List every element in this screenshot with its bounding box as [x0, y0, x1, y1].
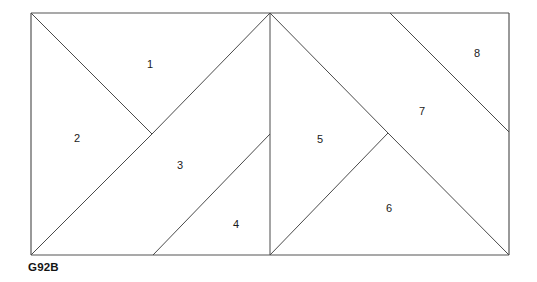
segment-cut-6-7 [388, 133, 509, 255]
region-label-7: 7 [419, 106, 425, 117]
segment-cut-1-3 [152, 13, 270, 134]
region-label-8: 8 [474, 48, 480, 59]
segment-cut-2-3 [31, 134, 152, 255]
region-label-2: 2 [74, 133, 80, 144]
segment-cut-5-6 [270, 133, 388, 255]
region-label-1: 1 [147, 59, 153, 70]
region-label-6: 6 [386, 203, 392, 214]
segment-cut-7-8 [390, 13, 509, 132]
segment-cut-3-4 [153, 134, 270, 255]
line-segments-group [31, 13, 509, 255]
figure-caption-label: G92B [28, 262, 59, 274]
region-label-4: 4 [233, 219, 239, 230]
segment-cut-5-7 [270, 13, 388, 133]
region-label-3: 3 [177, 160, 183, 171]
region-label-5: 5 [317, 134, 323, 145]
segment-cut-1-2 [31, 13, 152, 134]
geometric-dissection-figure: 12345678 G92B [0, 0, 537, 282]
dissection-diagram-canvas [0, 0, 537, 282]
